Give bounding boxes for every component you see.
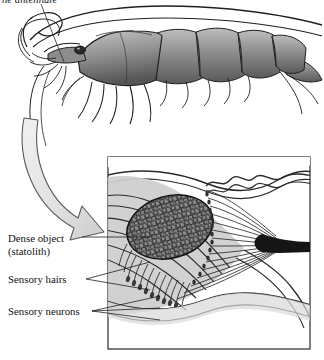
label-dense-object-line2: (statolith) (8, 245, 64, 258)
figure-root: ne antennule (0, 0, 324, 360)
label-sensory-neurons: Sensory neurons (8, 305, 80, 318)
label-dense-object: Dense object (statolith) (8, 232, 64, 257)
label-dense-object-line1: Dense object (8, 232, 64, 244)
label-sensory-neurons-line1: Sensory neurons (8, 305, 80, 317)
label-sensory-hairs: Sensory hairs (8, 273, 66, 286)
label-sensory-hairs-line1: Sensory hairs (8, 273, 66, 285)
caption-fragment: ne antennule (2, 0, 57, 5)
